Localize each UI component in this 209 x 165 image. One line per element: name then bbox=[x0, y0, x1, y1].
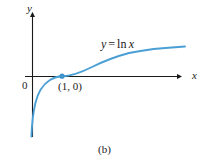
figure-container: y x 0 y=ln x (1, 0) (b) bbox=[0, 0, 209, 165]
log-curve bbox=[31, 47, 185, 137]
origin-label: 0 bbox=[22, 80, 28, 91]
curve-equation-label: y=ln x bbox=[101, 38, 134, 50]
plot-canvas bbox=[0, 0, 209, 165]
x-axis-label: x bbox=[192, 70, 197, 81]
figure-caption: (b) bbox=[0, 143, 209, 155]
equation-function: ln bbox=[117, 37, 126, 51]
equation-operator: = bbox=[106, 37, 117, 51]
point-marker-1-0 bbox=[59, 74, 64, 79]
y-axis-label: y bbox=[27, 3, 32, 14]
equation-argument: x bbox=[129, 37, 134, 51]
point-coordinate-label: (1, 0) bbox=[58, 81, 82, 92]
